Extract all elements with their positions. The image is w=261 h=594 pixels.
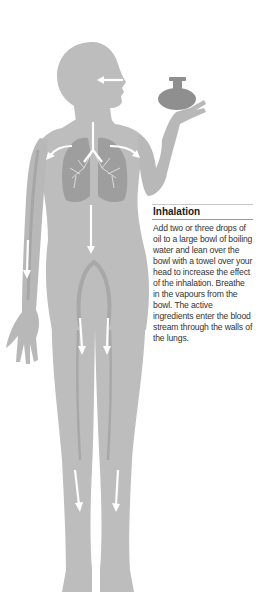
caption-body: Add two or three drops of oil to a large… — [152, 223, 253, 344]
right-arm — [138, 100, 206, 196]
caption-bottom-rule — [152, 219, 253, 220]
left-arm-arrow-icon — [27, 240, 28, 272]
caption-box: Inhalation Add two or three drops of oil… — [152, 204, 253, 344]
oil-bottle-icon — [158, 77, 196, 110]
caption-heading: Inhalation — [152, 205, 253, 219]
head — [57, 42, 126, 122]
right-thigh-arrow-icon — [107, 318, 108, 348]
legs — [52, 300, 146, 592]
